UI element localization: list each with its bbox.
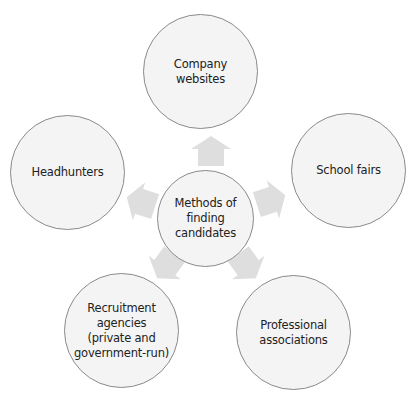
center-node: Methods of finding candidates bbox=[157, 170, 254, 267]
node-label: Company websites bbox=[174, 57, 227, 87]
node-recruitment-agencies: Recruitment agencies (private and govern… bbox=[64, 273, 179, 388]
node-professional-associations: Professional associations bbox=[236, 275, 351, 390]
arrow-left-icon bbox=[121, 178, 162, 225]
node-label: School fairs bbox=[316, 163, 380, 178]
arrow-right-icon bbox=[251, 176, 292, 223]
center-node-label: Methods of finding candidates bbox=[175, 196, 237, 241]
node-label: Headhunters bbox=[31, 165, 103, 180]
arrow-up-icon bbox=[191, 136, 231, 166]
node-label: Recruitment agencies (private and govern… bbox=[74, 301, 169, 361]
node-label: Professional associations bbox=[259, 318, 327, 348]
node-school-fairs: School fairs bbox=[291, 113, 406, 228]
node-company-websites: Company websites bbox=[143, 14, 258, 129]
diagram-canvas: Methods of finding candidates Company we… bbox=[0, 0, 418, 400]
node-headhunters: Headhunters bbox=[10, 115, 125, 230]
